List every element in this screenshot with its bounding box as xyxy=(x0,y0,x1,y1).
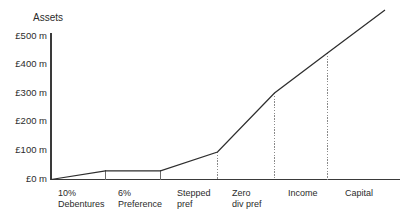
chart-axis-title: Assets xyxy=(33,12,63,23)
y-tick-label-100: £100 m xyxy=(15,144,47,155)
x-tick-label-debentures-line1: 10% xyxy=(58,188,76,198)
x-tick-label-debentures-line2: Debentures xyxy=(58,199,105,209)
assets-cumulative-line xyxy=(51,10,385,180)
x-axis-tick-labels: 10% Debentures 6% Preference Stepped pre… xyxy=(58,188,373,209)
x-tick-label-preference-line1: 6% xyxy=(118,188,131,198)
y-tick-label-0: £0 m xyxy=(26,173,47,184)
y-tick-label-200: £200 m xyxy=(15,115,47,126)
x-tick-label-preference-line2: Preference xyxy=(118,199,162,209)
x-tick-label-capital-line1: Capital xyxy=(345,188,373,198)
x-tick-label-stepped-pref-line2: pref xyxy=(177,199,193,209)
x-tick-label-income-line1: Income xyxy=(288,188,318,198)
y-axis-tick-labels: £500 m £400 m £300 m £200 m £100 m £0 m xyxy=(15,30,47,184)
x-tick-label-stepped-pref-line1: Stepped xyxy=(177,188,211,198)
y-tick-label-500: £500 m xyxy=(15,30,47,41)
boundary-marker-group xyxy=(106,53,328,180)
chart-canvas: £500 m £400 m £300 m £200 m £100 m £0 m … xyxy=(0,0,415,218)
x-tick-label-zero-div-pref-line1: Zero xyxy=(232,188,251,198)
assets-chart: £500 m £400 m £300 m £200 m £100 m £0 m … xyxy=(0,0,415,218)
x-tick-label-zero-div-pref-line2: div pref xyxy=(232,199,262,209)
y-tick-label-300: £300 m xyxy=(15,87,47,98)
y-tick-label-400: £400 m xyxy=(15,58,47,69)
axis-group xyxy=(51,33,400,180)
